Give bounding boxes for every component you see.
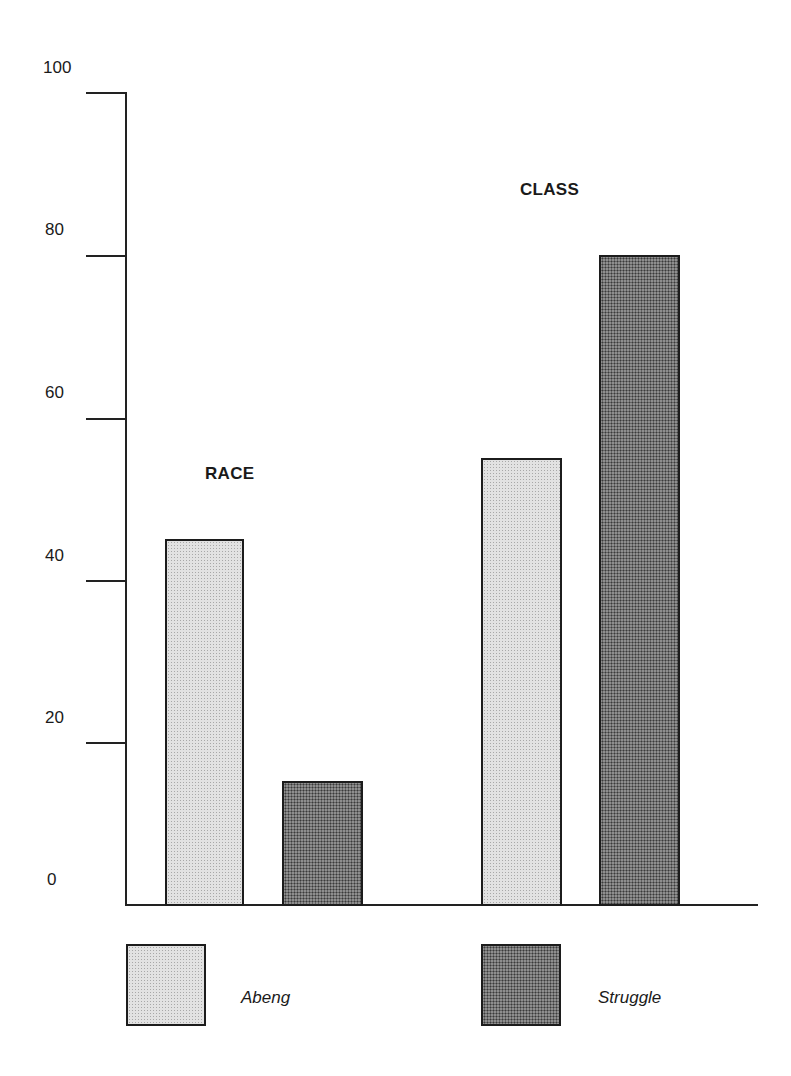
bar-class-struggle — [599, 255, 680, 906]
y-tick-label-80: 80 — [45, 220, 64, 240]
y-tick-80 — [86, 255, 126, 257]
bar-race-struggle — [282, 781, 363, 906]
bar-class-abeng — [481, 458, 562, 906]
y-tick-40 — [86, 580, 126, 582]
bar-race-abeng — [165, 539, 244, 906]
y-tick-label-0: 0 — [47, 870, 56, 890]
y-tick-label-60: 60 — [45, 383, 64, 403]
y-tick-label-20: 20 — [45, 708, 64, 728]
y-axis — [125, 92, 127, 906]
legend-label-abeng: Abeng — [241, 988, 290, 1008]
legend-label-struggle: Struggle — [598, 988, 661, 1008]
category-label-class: CLASS — [520, 180, 579, 200]
y-tick-60 — [86, 418, 126, 420]
legend-swatch-struggle — [481, 944, 561, 1026]
y-tick-label-100: 100 — [43, 58, 71, 78]
y-tick-label-40: 40 — [45, 546, 64, 566]
category-label-race: RACE — [205, 464, 254, 484]
y-tick-20 — [86, 742, 126, 744]
y-tick-100 — [86, 92, 126, 94]
legend-swatch-abeng — [126, 944, 206, 1026]
